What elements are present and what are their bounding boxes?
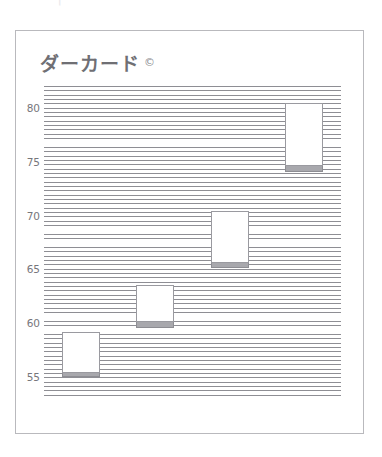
y-axis-tick-label: 60 bbox=[27, 317, 40, 329]
top-edge-artifact-strip: ···|·· bbox=[0, 0, 382, 10]
y-axis-tick-label: 75 bbox=[27, 156, 40, 168]
chart-title-text: ダーカード bbox=[40, 53, 140, 75]
y-axis: 556065707580 bbox=[16, 86, 44, 399]
clipped-glyph-row: ···|·· bbox=[18, 0, 97, 6]
y-axis-tick-label: 70 bbox=[27, 210, 40, 222]
copyright-icon: © bbox=[144, 56, 156, 69]
chart-box bbox=[285, 103, 323, 166]
y-axis-tick-label: 80 bbox=[27, 102, 40, 114]
chart-box bbox=[211, 211, 249, 263]
chart-box-base bbox=[211, 263, 249, 268]
y-axis-tick-label: 55 bbox=[27, 371, 40, 383]
chart-box-base bbox=[285, 166, 323, 172]
chart-box bbox=[136, 285, 174, 323]
chart-box-base bbox=[136, 322, 174, 327]
chart-box-base bbox=[62, 373, 100, 377]
chart-card: ダーカード© 556065707580 bbox=[15, 30, 364, 434]
plot-area bbox=[44, 86, 341, 399]
page-title: ダーカード© bbox=[40, 49, 156, 76]
chart-box bbox=[62, 332, 100, 373]
y-axis-tick-label: 65 bbox=[27, 263, 40, 275]
